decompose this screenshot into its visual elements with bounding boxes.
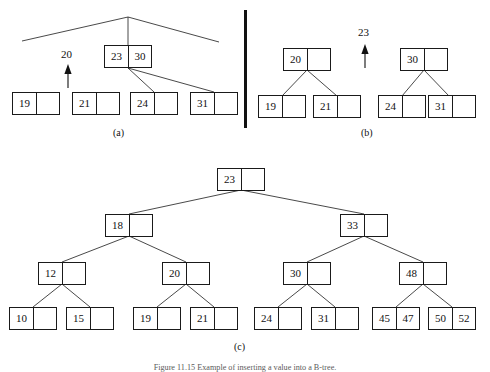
leaf-a-31: 31 xyxy=(190,92,238,115)
node-cell xyxy=(241,169,264,190)
node-cell: 31 xyxy=(429,96,452,117)
insert-value-label-a: 20 xyxy=(61,49,72,60)
node-cell: 12 xyxy=(39,263,62,284)
node-cell: 23 xyxy=(105,46,128,67)
leaf-c-21: 21 xyxy=(190,307,238,330)
node-b-30: 30 xyxy=(400,48,448,71)
leaf-c-45-47: 45 47 xyxy=(372,307,420,330)
node-cell: 48 xyxy=(400,263,423,284)
panel-label-a: (a) xyxy=(113,127,124,138)
node-cell: 10 xyxy=(10,308,33,329)
edge-c-12-to-15 xyxy=(62,284,90,307)
leaf-c-15: 15 xyxy=(66,307,114,330)
node-cell xyxy=(33,308,56,329)
node-cell xyxy=(214,308,237,329)
node-cell: 15 xyxy=(67,308,90,329)
node-cell: 24 xyxy=(379,96,402,117)
node-c-33: 33 xyxy=(340,214,388,237)
node-cell: 19 xyxy=(13,93,36,114)
node-cell: 31 xyxy=(191,93,214,114)
edge-c-root-to-18 xyxy=(129,190,241,214)
leaf-c-19: 19 xyxy=(133,307,181,330)
node-cell: 47 xyxy=(396,308,419,329)
insert-arrow-b xyxy=(361,44,368,68)
node-cell: 23 xyxy=(218,169,241,190)
node-c-12: 12 xyxy=(38,262,86,285)
leaf-b-31: 31 xyxy=(428,95,476,118)
leaf-b-21: 21 xyxy=(313,95,361,118)
edge-c-18-to-20 xyxy=(129,236,186,262)
node-c-18: 18 xyxy=(105,214,153,237)
node-c-root: 23 xyxy=(217,168,265,191)
figure-caption: Figure 11.15 Example of inserting a valu… xyxy=(0,363,490,372)
edge-c-30-to-24 xyxy=(278,284,307,307)
node-cell xyxy=(364,215,387,236)
node-cell xyxy=(129,215,152,236)
edge-c-48-to-4547 xyxy=(396,284,423,307)
node-a-internal: 23 30 xyxy=(104,45,152,68)
edge-c-33-to-48 xyxy=(364,236,423,262)
leaf-c-24: 24 xyxy=(254,307,302,330)
panel-label-b: (b) xyxy=(361,127,373,138)
insert-arrow-a xyxy=(64,64,71,88)
edge-c-20-to-21 xyxy=(186,284,214,307)
node-cell: 21 xyxy=(191,308,214,329)
node-cell xyxy=(157,308,180,329)
node-cell: 45 xyxy=(373,308,396,329)
edge-c-48-to-5052 xyxy=(423,284,452,307)
node-cell: 20 xyxy=(284,49,307,70)
edge-b-30-to-31 xyxy=(424,70,449,96)
panel-divider xyxy=(244,10,247,128)
node-cell: 21 xyxy=(314,96,337,117)
edge-a-apex-left xyxy=(22,17,128,41)
edge-c-18-to-12 xyxy=(62,236,129,262)
node-cell xyxy=(36,93,59,114)
node-cell xyxy=(186,263,209,284)
node-cell: 20 xyxy=(163,263,186,284)
node-c-20: 20 xyxy=(162,262,210,285)
node-cell xyxy=(278,308,301,329)
node-cell xyxy=(335,308,358,329)
edge-b-30-to-24 xyxy=(402,70,424,96)
leaf-a-19: 19 xyxy=(12,92,60,115)
node-cell xyxy=(424,49,447,70)
node-c-30: 30 xyxy=(283,262,331,285)
panel-label-c: (c) xyxy=(234,341,245,352)
leaf-a-24: 24 xyxy=(130,92,178,115)
node-cell: 30 xyxy=(401,49,424,70)
leaf-a-21: 21 xyxy=(72,92,120,115)
node-cell: 19 xyxy=(134,308,157,329)
edge-c-root-to-33 xyxy=(241,190,364,214)
node-cell: 30 xyxy=(128,46,151,67)
node-cell xyxy=(402,96,425,117)
node-cell xyxy=(452,96,475,117)
edge-c-33-to-30 xyxy=(307,236,364,262)
edge-b-20-to-19 xyxy=(282,70,307,96)
node-cell: 18 xyxy=(106,215,129,236)
node-cell xyxy=(307,263,330,284)
node-cell xyxy=(282,96,305,117)
leaf-c-10: 10 xyxy=(9,307,57,330)
node-cell: 21 xyxy=(73,93,96,114)
leaf-b-19: 19 xyxy=(258,95,306,118)
promoted-value-label-b: 23 xyxy=(358,27,369,38)
edge-b-20-to-21 xyxy=(307,70,337,96)
node-cell xyxy=(337,96,360,117)
node-cell xyxy=(423,263,446,284)
edge-c-30-to-31 xyxy=(307,284,335,307)
edge-c-12-to-10 xyxy=(33,284,62,307)
node-cell xyxy=(154,93,177,114)
node-cell xyxy=(214,93,237,114)
leaf-b-24: 24 xyxy=(378,95,426,118)
node-cell: 33 xyxy=(341,215,364,236)
node-cell: 19 xyxy=(259,96,282,117)
leaf-c-31: 31 xyxy=(311,307,359,330)
node-cell: 50 xyxy=(429,308,452,329)
node-cell: 30 xyxy=(284,263,307,284)
node-cell xyxy=(96,93,119,114)
node-cell xyxy=(307,49,330,70)
node-cell: 52 xyxy=(452,308,475,329)
node-cell xyxy=(90,308,113,329)
edge-c-20-to-19 xyxy=(157,284,186,307)
